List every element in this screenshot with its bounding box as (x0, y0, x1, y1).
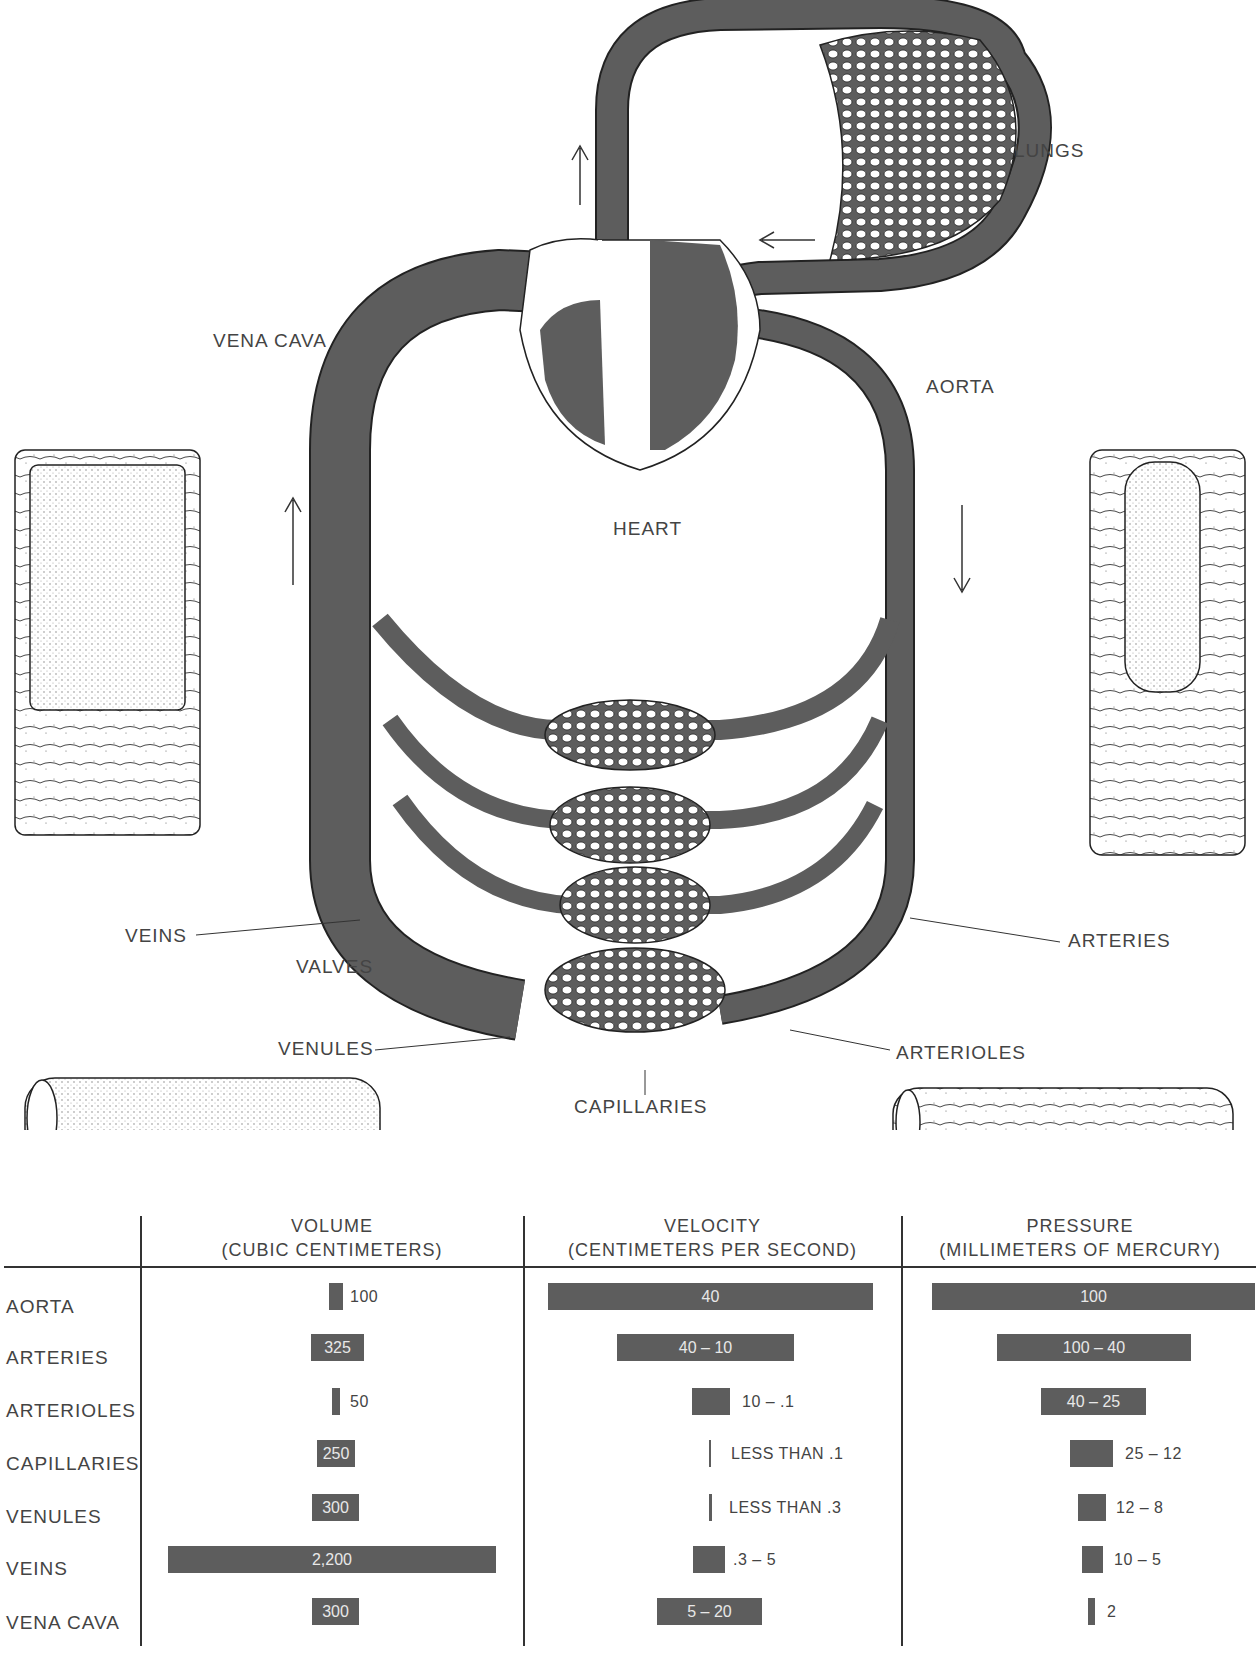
label-vena-cava: VENA CAVA (213, 330, 327, 352)
table-column-divider (140, 1216, 142, 1646)
column-title: VELOCITY (524, 1214, 901, 1238)
velocity-value: 10 – .1 (742, 1388, 794, 1415)
arrow-left-icon (760, 232, 815, 248)
pressure-value: 25 – 12 (1125, 1440, 1182, 1467)
heart (520, 239, 760, 470)
column-unit: (CENTIMETERS PER SECOND) (524, 1238, 901, 1262)
label-veins: VEINS (125, 925, 187, 947)
arteriole-illustration (893, 1088, 1233, 1130)
column-title: PRESSURE (902, 1214, 1258, 1238)
pressure-bar: 100 (932, 1283, 1255, 1310)
row-label-veins: VEINS (6, 1558, 68, 1580)
pressure-bar (1088, 1598, 1095, 1625)
row-label-arteries: ARTERIES (6, 1347, 109, 1369)
volume-bar: 325 (311, 1334, 364, 1361)
pressure-value: 10 – 5 (1114, 1546, 1161, 1573)
artery-illustration (1090, 450, 1245, 855)
velocity-value: .3 – 5 (733, 1546, 776, 1573)
table-column-divider (901, 1216, 903, 1646)
column-title: VOLUME (141, 1214, 523, 1238)
pressure-bar (1070, 1440, 1113, 1467)
arrow-up-icon (572, 146, 588, 205)
velocity-bar (692, 1388, 730, 1415)
label-venules: VENULES (278, 1038, 374, 1060)
label-heart: HEART (613, 518, 682, 540)
pressure-bar: 40 – 25 (1041, 1388, 1146, 1415)
circulatory-diagram (0, 0, 1260, 1130)
row-label-aorta: AORTA (6, 1296, 75, 1318)
arrow-up-icon (285, 498, 301, 585)
venule-illustration (25, 1078, 380, 1130)
row-label-vena-cava: VENA CAVA (6, 1612, 120, 1634)
label-aorta: AORTA (926, 376, 995, 398)
row-label-venules: VENULES (6, 1506, 102, 1528)
volume-bar: 250 (317, 1440, 355, 1467)
volume-bar (332, 1388, 340, 1415)
column-unit: (MILLIMETERS OF MERCURY) (902, 1238, 1258, 1262)
volume-value: 50 (350, 1388, 369, 1415)
row-label-arterioles: ARTERIOLES (6, 1400, 136, 1422)
arrow-down-icon (954, 505, 970, 592)
velocity-bar (709, 1494, 712, 1521)
column-unit: (CUBIC CENTIMETERS) (141, 1238, 523, 1262)
volume-bar: 2,200 (168, 1546, 496, 1573)
column-header-volume: VOLUME (CUBIC CENTIMETERS) (141, 1214, 523, 1262)
velocity-bar: 5 – 20 (657, 1598, 762, 1625)
pressure-bar (1078, 1494, 1106, 1521)
label-arterioles: ARTERIOLES (896, 1042, 1026, 1064)
label-arteries: ARTERIES (1068, 930, 1171, 952)
velocity-bar (693, 1546, 725, 1573)
velocity-bar (709, 1440, 711, 1467)
label-capillaries: CAPILLARIES (574, 1096, 708, 1118)
pressure-value: 12 – 8 (1116, 1494, 1163, 1521)
volume-value: 100 (350, 1283, 378, 1310)
column-header-pressure: PRESSURE (MILLIMETERS OF MERCURY) (902, 1214, 1258, 1262)
pressure-value: 2 (1107, 1598, 1116, 1625)
label-valves: VALVES (296, 956, 373, 978)
pressure-bar (1082, 1546, 1103, 1573)
volume-bar: 300 (312, 1494, 359, 1521)
row-label-capillaries: CAPILLARIES (6, 1453, 140, 1475)
vein-illustration (15, 450, 200, 835)
pressure-bar: 100 – 40 (997, 1334, 1191, 1361)
table-header-divider (4, 1266, 1256, 1268)
velocity-value: LESS THAN .1 (731, 1440, 843, 1467)
velocity-value: LESS THAN .3 (729, 1494, 841, 1521)
volume-bar: 300 (312, 1598, 359, 1625)
velocity-bar: 40 (548, 1283, 873, 1310)
velocity-bar: 40 – 10 (617, 1334, 794, 1361)
table-column-divider (523, 1216, 525, 1646)
label-lungs: LUNGS (1014, 140, 1084, 162)
volume-bar (329, 1283, 343, 1310)
column-header-velocity: VELOCITY (CENTIMETERS PER SECOND) (524, 1214, 901, 1262)
